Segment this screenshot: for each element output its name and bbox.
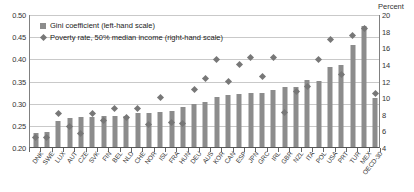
right-axis-tick-label: 4: [382, 144, 386, 153]
gini-bar: [112, 116, 117, 147]
chart-column: [302, 15, 313, 147]
poverty-rate-marker: [270, 54, 277, 61]
chart-column: [279, 15, 290, 147]
x-axis-category-label: NLD: [121, 150, 134, 164]
x-axis-category-label: KOR: [211, 150, 225, 165]
poverty-rate-marker: [326, 36, 333, 43]
left-axis-tick-label: 0.20: [12, 144, 26, 153]
chart-column: [313, 15, 324, 147]
gini-bar: [271, 90, 276, 147]
chart-column: [268, 15, 279, 147]
gini-bar: [260, 93, 265, 147]
gini-bar: [350, 45, 355, 147]
gini-bar: [158, 112, 163, 147]
legend-diamond-swatch-icon: [39, 34, 46, 41]
legend-item: Poverty rate, 50% median income (right-h…: [40, 33, 223, 42]
legend-item: Gini coefficient (left-hand scale): [40, 21, 223, 30]
gini-bar: [362, 26, 367, 147]
gini-bar: [135, 113, 140, 147]
left-axis-tick-label: 0.25: [12, 121, 26, 130]
chart-legend: Gini coefficient (left-hand scale)Povert…: [40, 21, 223, 42]
right-axis-tick-label: 16: [382, 44, 390, 53]
poverty-rate-marker: [111, 105, 118, 112]
poverty-rate-marker: [372, 90, 379, 97]
left-axis-tick-label: 0.40: [12, 55, 26, 64]
gini-bar: [373, 98, 378, 147]
gini-bar: [316, 81, 321, 147]
chart-column: [256, 15, 267, 147]
x-axis-category-label: FIN: [100, 150, 112, 162]
chart-column: [336, 15, 347, 147]
chart-column: [245, 15, 256, 147]
poverty-rate-marker: [349, 32, 356, 39]
x-axis-category-label: PRT: [337, 150, 350, 164]
gini-bar: [169, 111, 174, 147]
left-axis: 0.200.250.300.350.400.450.50: [0, 0, 26, 192]
x-axis-category-label: NZL: [292, 150, 305, 164]
x-axis-category-label: LUX: [54, 150, 67, 164]
poverty-rate-marker: [259, 73, 266, 80]
gini-bar: [214, 97, 219, 147]
right-axis-tick-label: 20: [382, 11, 390, 20]
right-axis-tick-label: 18: [382, 27, 390, 36]
x-axis-category-label: CZE: [76, 150, 89, 164]
x-axis-category-label: USA: [325, 150, 339, 165]
x-axis-category-label: DEU: [189, 150, 203, 165]
right-axis-tick-label: 10: [382, 94, 390, 103]
gini-bar: [90, 117, 95, 147]
gini-bar: [248, 93, 253, 147]
x-axis-labels: DNKSWELUXAUTCZESVKFINBELNLDCHENORISLFRAH…: [29, 150, 380, 192]
chart-column: [290, 15, 301, 147]
poverty-rate-marker: [315, 56, 322, 63]
x-axis-category-label: TUR: [348, 150, 362, 165]
poverty-rate-marker: [134, 105, 141, 112]
chart-column: [222, 15, 233, 147]
x-axis-category-label: CHE: [132, 150, 146, 165]
right-axis-tick-label: 12: [382, 77, 390, 86]
poverty-rate-marker: [202, 75, 209, 82]
chart-column: [358, 15, 369, 147]
gini-bar: [226, 95, 231, 147]
poverty-rate-marker: [247, 54, 254, 61]
gini-bar: [180, 107, 185, 147]
right-axis-tick-label: 14: [382, 60, 390, 69]
x-axis-category-label: BEL: [111, 150, 124, 164]
gini-bar: [237, 94, 242, 147]
inequality-chart: Percent 0.200.250.300.350.400.450.50 468…: [0, 0, 414, 192]
gini-bar: [282, 87, 287, 147]
x-axis-category-label: POL: [314, 150, 327, 164]
chart-column: [347, 15, 358, 147]
poverty-rate-marker: [225, 78, 232, 85]
right-axis: 468101214161820: [382, 0, 414, 192]
right-axis-tick-label: 6: [382, 127, 386, 136]
poverty-rate-marker: [191, 86, 198, 93]
left-axis-tick-label: 0.35: [12, 77, 26, 86]
gini-bar: [203, 102, 208, 147]
x-axis-category-label: GRC: [256, 150, 270, 165]
gini-bar: [294, 87, 299, 147]
poverty-rate-marker: [213, 56, 220, 63]
poverty-rate-marker: [236, 61, 243, 68]
x-axis-category-label: AUT: [65, 150, 78, 164]
legend-label: Poverty rate, 50% median income (right-h…: [50, 33, 223, 42]
right-axis-tick-label: 8: [382, 110, 386, 119]
gini-bar: [146, 113, 151, 147]
x-axis-category-label: AUS: [200, 150, 214, 165]
left-axis-tick-label: 0.50: [12, 11, 26, 20]
x-axis-category-label: NOR: [143, 150, 157, 165]
legend-bar-swatch-icon: [40, 23, 46, 29]
x-axis-category-label: FRA: [167, 150, 180, 164]
x-axis-category-label: GBR: [279, 150, 293, 165]
gini-bar: [192, 104, 197, 147]
chart-column: [234, 15, 245, 147]
left-axis-tick-label: 0.30: [12, 99, 26, 108]
poverty-rate-marker: [157, 94, 164, 101]
x-axis-category-label: SVK: [87, 150, 100, 164]
left-axis-tick-label: 0.45: [12, 33, 26, 42]
gini-bar: [56, 121, 61, 147]
legend-label: Gini coefficient (left-hand scale): [50, 21, 155, 30]
poverty-rate-marker: [55, 110, 62, 117]
gini-bar: [328, 67, 333, 147]
chart-column: [324, 15, 335, 147]
chart-column: [370, 15, 381, 147]
